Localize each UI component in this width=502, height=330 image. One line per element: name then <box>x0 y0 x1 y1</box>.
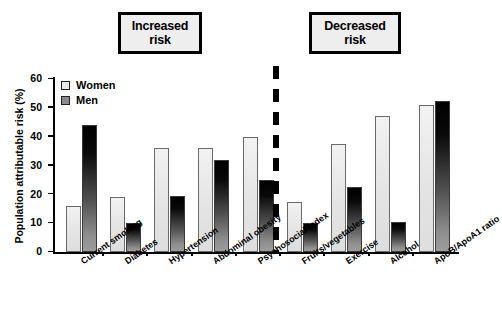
bar-women-8 <box>419 105 434 252</box>
y-tick-0: 0 <box>48 251 53 253</box>
bar-men-3 <box>214 160 229 252</box>
annotation-decreased-line2: risk <box>324 33 385 47</box>
legend-swatch-men <box>61 96 70 105</box>
bar-women-7 <box>375 116 390 252</box>
legend-item-women: Women <box>61 79 116 91</box>
y-tick-label-60: 60 <box>30 72 42 84</box>
y-axis-label: Population attributable risk (%) <box>13 88 25 243</box>
y-tick-30: 30 <box>48 164 53 166</box>
annotation-decreased-risk: Decreased risk <box>309 12 401 54</box>
bar-women-0 <box>66 206 81 252</box>
bar-men-8 <box>435 101 450 252</box>
chart-legend: Women Men <box>61 79 116 109</box>
y-tick-label-50: 50 <box>30 101 42 113</box>
y-tick-20: 20 <box>48 193 53 195</box>
y-tick-label-40: 40 <box>30 130 42 142</box>
y-tick-label-0: 0 <box>36 245 42 257</box>
y-tick-40: 40 <box>48 135 53 137</box>
legend-item-men: Men <box>61 94 116 106</box>
legend-swatch-women <box>61 81 70 90</box>
y-tick-label-30: 30 <box>30 159 42 171</box>
risk-divider-dashed-line <box>273 66 279 254</box>
annotation-increased-line2: risk <box>132 33 189 47</box>
y-tick-60: 60 <box>48 78 53 80</box>
annotation-decreased-line1: Decreased <box>324 19 385 33</box>
annotation-increased-line1: Increased <box>132 19 189 33</box>
y-tick-label-10: 10 <box>30 216 42 228</box>
bar-men-0 <box>82 125 97 252</box>
y-tick-10: 10 <box>48 222 53 224</box>
y-tick-50: 50 <box>48 106 53 108</box>
legend-label-women: Women <box>76 79 116 91</box>
bar-women-2 <box>154 148 169 252</box>
plot-area: Population attributable risk (%) 0102030… <box>53 79 457 252</box>
bar-men-2 <box>170 196 185 252</box>
annotation-increased-risk: Increased risk <box>118 12 202 54</box>
y-tick-label-20: 20 <box>30 188 42 200</box>
legend-label-men: Men <box>76 94 98 106</box>
